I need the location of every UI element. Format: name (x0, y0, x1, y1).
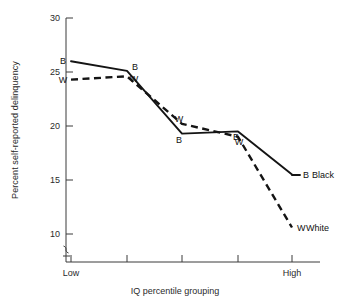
y-tick-label-30: 30 (50, 13, 60, 23)
legend-marker-white: W (297, 223, 306, 233)
point-label-white-2: W (130, 74, 139, 84)
y-tick-label-20: 20 (50, 121, 60, 131)
point-label-white-1: W (59, 75, 68, 85)
point-label-black-2: B (132, 62, 138, 72)
legend-label-white: White (306, 223, 329, 233)
x-axis-title: IQ percentile grouping (131, 286, 220, 296)
y-tick-label-10: 10 (50, 229, 60, 239)
series-line-white (71, 76, 292, 227)
y-tick-label-15: 15 (50, 175, 60, 185)
legend-label-black: Black (312, 170, 335, 180)
x-tick-label-high: High (283, 268, 302, 278)
point-label-black-3: B (176, 135, 182, 145)
chart-svg: 30 25 20 15 10 Low High IQ percentile gr… (0, 0, 338, 301)
point-label-black-1: B (60, 56, 66, 66)
legend-marker-black: B (303, 170, 309, 180)
point-label-white-3: W (175, 114, 184, 124)
x-tick-label-low: Low (63, 268, 80, 278)
chart-container: Percent self-reported delinquency 30 25 … (0, 0, 338, 301)
point-label-white-4: W (235, 137, 244, 147)
